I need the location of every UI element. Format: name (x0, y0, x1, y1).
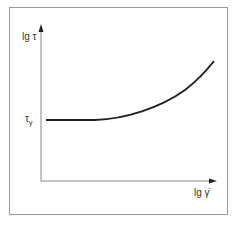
yield-stress-label: τy (25, 113, 32, 126)
y-axis-arrow-icon (39, 24, 44, 32)
x-axis-arrow-icon (209, 179, 217, 184)
x-axis-label: lg γ̇ (194, 187, 210, 198)
flow-curve (46, 61, 214, 120)
y-axis-label: lg τ (22, 31, 37, 42)
